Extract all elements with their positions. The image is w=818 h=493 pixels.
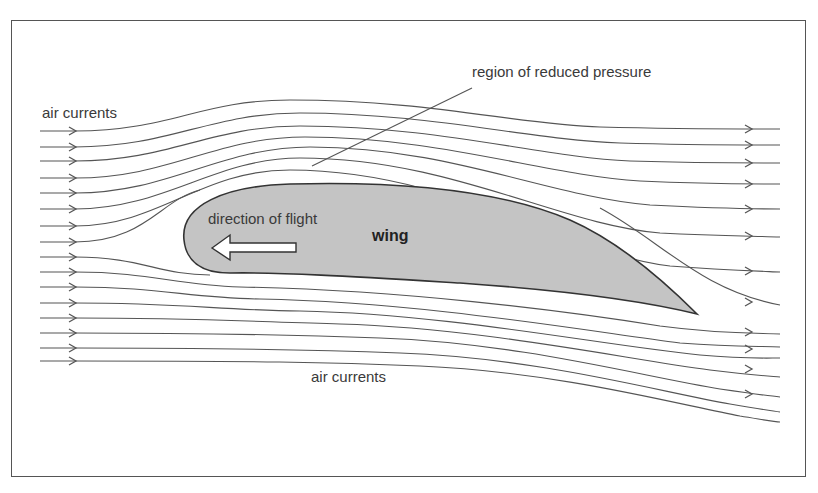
air-currents-label-top: air currents — [42, 104, 117, 121]
arrowhead-icon — [745, 390, 752, 398]
air-currents-label-bottom: air currents — [311, 368, 386, 385]
streamline — [40, 303, 780, 358]
region-of-reduced-pressure-label: region of reduced pressure — [472, 63, 651, 80]
streamline — [40, 190, 200, 242]
right-arrowheads — [745, 125, 752, 398]
streamline — [40, 333, 780, 397]
streamline — [40, 100, 780, 131]
left-arrowheads — [69, 127, 76, 365]
wing-label: wing — [372, 227, 408, 245]
direction-of-flight-label: direction of flight — [208, 210, 317, 227]
arrowhead-icon — [745, 298, 752, 306]
arrowhead-icon — [745, 365, 752, 373]
airflow-diagram — [0, 0, 818, 493]
arrowhead-icon — [745, 328, 752, 336]
